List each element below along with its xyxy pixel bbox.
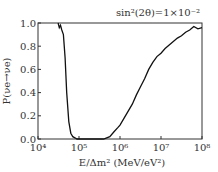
y-tick-label: 1.0 — [20, 18, 36, 29]
plot-frame — [38, 23, 202, 139]
x-tick-label: 10⁴ — [30, 142, 47, 153]
y-tick-label: 0.4 — [20, 87, 36, 98]
x-tick-label: 10⁸ — [194, 142, 211, 153]
annotation: sin²(2θ)=1×10⁻² — [116, 7, 200, 18]
x-tick-label: 10⁵ — [71, 142, 88, 153]
y-tick-label: 0.8 — [20, 41, 36, 52]
x-axis-label: E/Δm² (MeV/eV²) — [79, 157, 165, 168]
y-axis-label: P(νe→νe) — [1, 57, 12, 104]
chart: sin²(2θ)=1×10⁻² 0.00.20.40.60.81.0 10⁴10… — [0, 0, 218, 172]
y-tick-label: 0.6 — [20, 64, 36, 75]
data-line — [58, 23, 202, 139]
y-tick-label: 0.2 — [20, 110, 36, 121]
x-tick-label: 10⁶ — [112, 142, 129, 153]
x-tick-label: 10⁷ — [153, 142, 170, 153]
